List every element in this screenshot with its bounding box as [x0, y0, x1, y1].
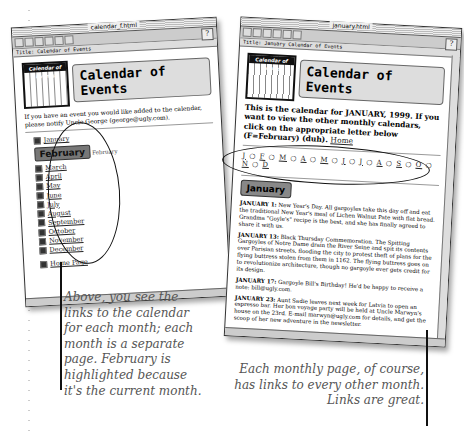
banner: Calendar of Events Calendar of Events — [245, 53, 445, 109]
callout-line-left — [60, 262, 62, 390]
reload-button[interactable] — [272, 29, 281, 38]
reload-button[interactable] — [44, 36, 53, 45]
back-button[interactable] — [14, 38, 23, 47]
bullet-icon — [38, 219, 45, 226]
bullet-icon — [36, 174, 43, 181]
stop-button[interactable] — [54, 36, 63, 45]
event-item: JANUARY 23: Aunt Sadie leaves next week … — [234, 294, 433, 332]
bullet-icon — [38, 229, 45, 236]
caption-left: Above, you see the links to the calendar… — [64, 290, 204, 399]
bullet-icon — [36, 183, 43, 190]
help-icon[interactable]: ? — [201, 28, 214, 41]
home-item[interactable]: Home Page — [40, 251, 220, 269]
bullet-icon — [39, 238, 46, 245]
window-title: calendar_f.html — [88, 21, 141, 31]
section-heading: January — [240, 180, 291, 199]
stop-button[interactable] — [282, 30, 291, 39]
forward-button[interactable] — [24, 37, 33, 46]
forward-button[interactable] — [252, 28, 261, 37]
calendar-icon: Calendar of Events — [22, 61, 71, 109]
bullet-icon — [35, 165, 42, 172]
bullet-icon — [36, 192, 43, 199]
bullet-icon — [37, 201, 44, 208]
browser-window-calendar: calendar_f.html Title: Calendar of Event… — [11, 17, 231, 307]
banner-heading: Calendar of Events — [298, 60, 445, 106]
banner: Calendar of Events Calendar of Events — [22, 53, 212, 109]
callout-line-right — [426, 330, 428, 426]
calendar-icon: Calendar of Events — [245, 53, 296, 101]
intro-text: This is the calendar for JANUARY, 1999. … — [243, 103, 443, 151]
help-icon[interactable]: ? — [445, 38, 458, 51]
window-title: january.html — [329, 21, 373, 30]
print-button[interactable] — [64, 35, 73, 44]
event-item: JANUARY 13: Black Thursday Commemoration… — [236, 231, 436, 283]
bullet-icon — [37, 210, 44, 217]
home-button[interactable] — [262, 29, 271, 38]
banner-heading: Calendar of Events — [72, 57, 212, 102]
bullet-icon — [40, 261, 47, 268]
bullet-icon — [34, 137, 41, 144]
caption-right: Each monthly page, of course, has links … — [224, 362, 424, 409]
home-button[interactable] — [34, 37, 43, 46]
home-link[interactable]: Home — [330, 135, 353, 145]
back-button[interactable] — [242, 28, 251, 37]
print-button[interactable] — [292, 30, 301, 39]
bullet-icon — [39, 247, 46, 254]
